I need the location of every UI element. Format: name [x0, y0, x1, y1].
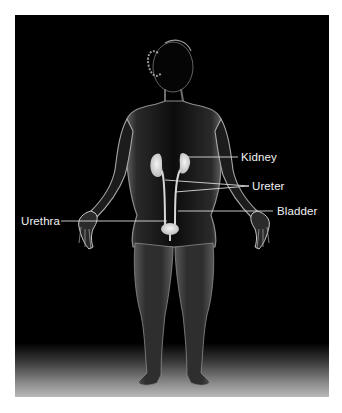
label-bladder: Bladder	[277, 205, 317, 217]
left-arm	[87, 119, 133, 219]
right-arm	[215, 119, 261, 219]
bladder-organ	[161, 223, 179, 235]
head	[148, 40, 193, 103]
label-urethra: Urethra	[21, 215, 60, 227]
left-leg	[134, 243, 173, 385]
right-hand	[251, 211, 270, 249]
label-kidney: Kidney	[241, 151, 277, 163]
label-ureter: Ureter	[252, 180, 285, 192]
illustration-frame: Kidney Ureter Bladder Urethra	[15, 15, 329, 397]
left-hand	[79, 211, 98, 249]
right-leg	[175, 243, 214, 385]
